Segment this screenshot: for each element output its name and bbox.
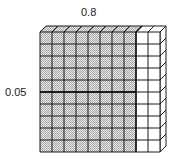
front-face (40, 32, 160, 152)
decimal-grid-model (0, 0, 177, 161)
top-face (40, 26, 166, 32)
right-face (160, 26, 166, 152)
